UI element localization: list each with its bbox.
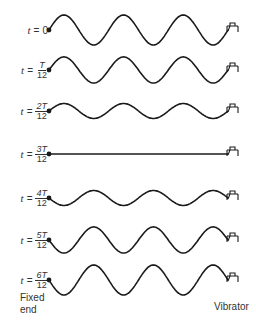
fixed-end-dot	[47, 278, 52, 283]
wave-row: t=4T12	[0, 178, 256, 218]
vibrator-icon	[227, 63, 238, 72]
string-wave	[0, 220, 256, 260]
fixed-end-label: Fixed end	[20, 292, 44, 316]
vibrator-icon	[227, 104, 238, 113]
fixed-end-dot	[47, 109, 52, 114]
fixed-end-label-line2: end	[20, 304, 44, 316]
wave-row: t=5T12	[0, 220, 256, 260]
string-wave	[0, 10, 256, 50]
wave-row: t=0	[0, 10, 256, 50]
fixed-end-label-line1: Fixed	[20, 292, 44, 304]
string-path	[49, 227, 228, 253]
string-wave	[0, 91, 256, 131]
string-path	[49, 265, 228, 295]
string-wave	[0, 134, 256, 174]
fixed-end-dot	[47, 28, 52, 33]
wave-row: t=T12	[0, 50, 256, 90]
fixed-end-dot	[47, 238, 52, 243]
vibrator-icon	[227, 147, 238, 156]
string-path	[49, 57, 228, 83]
string-path	[49, 104, 228, 119]
wave-row: t=3T12	[0, 134, 256, 174]
vibrator-icon	[227, 233, 238, 242]
vibrator-icon	[227, 191, 238, 200]
string-path	[49, 191, 228, 206]
vibrator-label: Vibrator	[214, 301, 249, 312]
string-wave	[0, 50, 256, 90]
wave-row: t=2T12	[0, 91, 256, 131]
fixed-end-dot	[47, 152, 52, 157]
fixed-end-dot	[47, 68, 52, 73]
string-path	[49, 15, 228, 45]
vibrator-icon	[227, 273, 238, 282]
vibrator-icon	[227, 23, 238, 32]
fixed-end-dot	[47, 196, 52, 201]
string-wave	[0, 178, 256, 218]
